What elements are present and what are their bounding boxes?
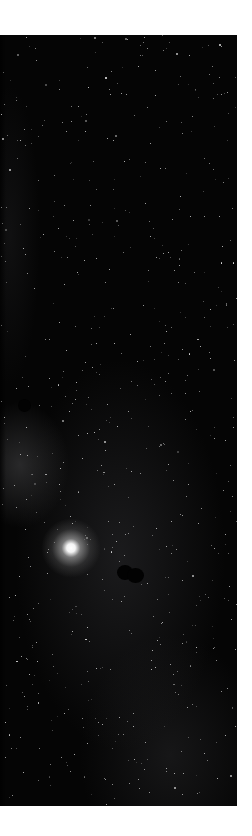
star	[26, 499, 27, 500]
star	[195, 90, 196, 91]
star	[166, 331, 167, 332]
star	[91, 344, 92, 345]
star	[109, 89, 110, 90]
star	[203, 301, 204, 302]
star	[81, 116, 82, 117]
star	[205, 594, 206, 595]
star	[98, 735, 99, 736]
star	[198, 369, 199, 370]
star	[128, 411, 129, 412]
star	[223, 182, 224, 183]
star	[148, 426, 149, 427]
star	[174, 787, 176, 789]
star	[156, 257, 157, 258]
star	[25, 145, 26, 146]
star	[139, 788, 140, 789]
star	[22, 377, 23, 378]
star	[225, 534, 226, 535]
star	[82, 718, 83, 719]
star	[224, 598, 225, 599]
star	[154, 308, 155, 309]
star	[134, 759, 135, 760]
star	[1, 114, 2, 115]
star	[113, 140, 114, 141]
star	[171, 521, 172, 522]
star	[66, 131, 67, 132]
star	[99, 429, 100, 430]
star	[121, 353, 122, 354]
star	[163, 50, 164, 51]
star	[227, 92, 228, 93]
star	[96, 372, 97, 373]
star	[194, 272, 195, 273]
star	[165, 325, 166, 326]
star	[166, 121, 167, 122]
star	[233, 324, 234, 325]
star	[44, 120, 45, 121]
star	[219, 77, 220, 78]
star	[166, 771, 167, 772]
star	[14, 616, 15, 617]
star	[175, 692, 176, 693]
star	[87, 671, 88, 672]
star	[75, 399, 76, 400]
star	[183, 773, 184, 774]
star	[109, 422, 110, 423]
star	[69, 612, 70, 613]
star	[211, 545, 212, 546]
star	[110, 417, 111, 418]
star	[227, 688, 228, 689]
star	[178, 694, 179, 695]
star	[5, 722, 6, 723]
star	[229, 586, 230, 587]
star	[214, 438, 215, 439]
star	[74, 754, 75, 755]
star	[47, 573, 48, 574]
star	[170, 664, 171, 665]
star	[230, 511, 231, 512]
star	[51, 720, 52, 721]
star	[199, 596, 200, 597]
star	[204, 272, 205, 273]
star	[36, 512, 37, 513]
star	[84, 260, 85, 261]
star	[26, 37, 27, 38]
star	[27, 706, 28, 707]
star	[88, 700, 89, 701]
star	[39, 405, 40, 406]
star	[38, 780, 39, 781]
star	[160, 377, 161, 378]
star	[95, 718, 96, 719]
star	[155, 70, 156, 71]
star	[45, 84, 47, 86]
star	[145, 742, 146, 743]
star	[73, 179, 74, 180]
star	[182, 349, 183, 350]
star	[1, 207, 2, 208]
star	[208, 45, 209, 46]
star	[151, 669, 152, 670]
star	[66, 762, 67, 763]
star	[188, 484, 189, 485]
star	[85, 120, 87, 122]
star	[179, 265, 180, 266]
star	[131, 381, 132, 382]
star	[5, 757, 6, 758]
star	[59, 89, 60, 90]
star	[147, 48, 148, 49]
star	[124, 596, 125, 597]
star	[162, 622, 163, 623]
star	[57, 716, 58, 717]
star	[26, 106, 27, 107]
star	[179, 258, 181, 260]
star	[104, 316, 105, 317]
star	[76, 390, 77, 391]
star	[125, 38, 127, 40]
star	[128, 497, 129, 498]
star	[106, 804, 107, 805]
star	[119, 522, 120, 523]
star	[185, 393, 186, 394]
star	[182, 133, 183, 134]
star	[213, 83, 214, 84]
star	[104, 441, 106, 443]
